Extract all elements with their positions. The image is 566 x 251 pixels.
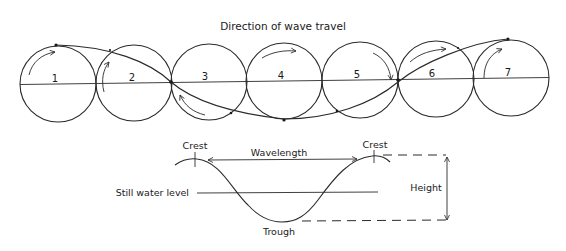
particle-dot-1 [54,43,57,46]
wave-profile: Crest Crest Wavelength Still water level… [116,139,447,237]
wave-profile-curve [175,156,390,222]
rotation-arrow-5-icon [373,53,391,80]
orbit-number-label: 5 [354,69,360,80]
particle-dot-7 [396,78,400,82]
orbit-number-label: 2 [129,72,135,83]
rotation-arrow-7-icon [484,49,502,78]
wave-diagram: Direction of wave travel 1234567 [0,0,566,251]
orbit-number-label: 3 [202,71,208,82]
rotation-arrow-4-icon [262,51,296,58]
rotation-arrows [29,49,502,115]
trough-dashed-line [302,220,446,221]
orbit-number-label: 4 [278,70,284,81]
wavelength-arrow [208,159,357,160]
orbit-number-label: 6 [429,68,435,79]
orbit-number-label: 1 [52,73,58,84]
rotation-arrow-3-icon [180,95,205,115]
height-label: Height [410,182,442,193]
orbit-number-label: 7 [505,67,511,78]
still-water-line [197,192,378,193]
still-water-level-label: Still water level [116,187,189,198]
particle-dot-2 [109,49,111,51]
rotation-arrow-6-icon [410,49,446,62]
particle-dot-6 [336,110,339,113]
particle-dot-5 [282,118,285,121]
diagram-title: Direction of wave travel [220,20,346,32]
orbit-axis-line [20,78,549,85]
wavelength-label: Wavelength [251,147,307,158]
particle-dot-4 [230,112,233,115]
particle-dot-8 [457,47,459,49]
rotation-arrow-2-icon [103,62,109,92]
particle-dot-9 [506,37,509,40]
trough-label: Trough [262,226,295,237]
crest-label-right: Crest [363,139,388,150]
particle-dot-3 [169,80,173,84]
crest-label-left: Crest [183,140,208,151]
